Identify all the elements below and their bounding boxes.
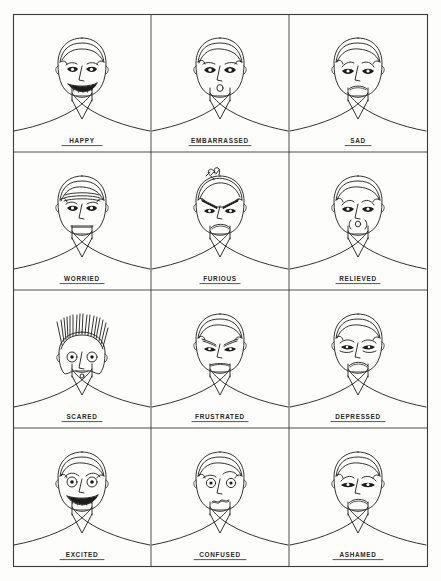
- face-label-furious: FURIOUS: [203, 275, 237, 282]
- face-cell-excited[interactable]: EXCITED: [14, 452, 150, 560]
- emotion-faces-sheet: HAPPY EMBARRASSED: [0, 0, 441, 581]
- face-cell-ashamed[interactable]: ASHAMED: [290, 452, 426, 560]
- face-cell-embarrassed[interactable]: EMBARRASSED: [152, 38, 288, 146]
- face-cell-frustrated[interactable]: FRUSTRATED: [152, 314, 288, 422]
- face-label-happy: HAPPY: [69, 137, 95, 144]
- face-label-worried: WORRIED: [64, 275, 100, 282]
- face-cell-happy[interactable]: HAPPY: [14, 38, 150, 146]
- face-label-sad: SAD: [350, 137, 366, 144]
- face-label-frustrated: FRUSTRATED: [195, 413, 245, 420]
- face-cell-depressed[interactable]: DEPRESSED: [290, 314, 426, 422]
- face-label-relieved: RELIEVED: [339, 275, 377, 282]
- face-label-scared: SCARED: [66, 413, 97, 420]
- face-label-ashamed: ASHAMED: [339, 551, 376, 558]
- face-cell-sad[interactable]: SAD: [290, 38, 426, 146]
- face-label-excited: EXCITED: [66, 551, 99, 558]
- face-cell-worried[interactable]: WORRIED: [14, 176, 150, 284]
- face-cell-furious[interactable]: FURIOUS: [152, 168, 288, 284]
- face-cell-scared[interactable]: SCARED: [14, 314, 150, 422]
- face-cell-relieved[interactable]: RELIEVED: [290, 176, 426, 284]
- face-label-confused: CONFUSED: [199, 551, 240, 558]
- face-cell-confused[interactable]: CONFUSED: [152, 452, 288, 560]
- face-label-embarrassed: EMBARRASSED: [191, 137, 249, 144]
- face-label-depressed: DEPRESSED: [335, 413, 381, 420]
